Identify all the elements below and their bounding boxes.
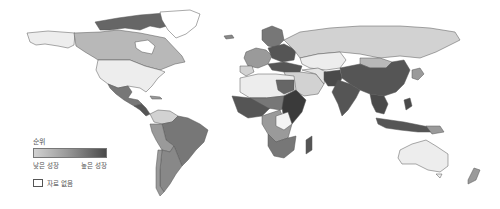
legend-no-data-label: 자료 없음 [47, 178, 73, 188]
region-southeast-asia [370, 94, 388, 114]
region-korea-japan [412, 68, 424, 80]
region-alaska [27, 31, 75, 48]
region-new-zealand [468, 168, 480, 184]
legend-high-label: 높은 성장 [81, 160, 107, 170]
legend-title: 순위 [33, 138, 113, 147]
region-iceland [224, 35, 234, 39]
region-western-europe [244, 48, 272, 68]
legend: 순위 낮은 성장 높은 성장 자료 없음 [33, 138, 113, 188]
region-balkans-turkey [268, 62, 302, 72]
region-philippines [404, 98, 412, 110]
region-caribbean [150, 96, 162, 99]
region-papua [426, 126, 444, 134]
legend-low-label: 낮은 성장 [33, 160, 59, 170]
region-indonesia [376, 118, 436, 132]
region-greenland [160, 10, 200, 38]
region-australia [398, 140, 448, 172]
legend-gradient-bar [33, 148, 107, 158]
region-central-america [134, 104, 150, 116]
region-iberia [240, 66, 254, 76]
no-data-swatch [33, 179, 43, 187]
legend-labels: 낮은 성장 높은 성장 [33, 160, 107, 170]
region-tasmania [436, 174, 442, 178]
region-russia [284, 26, 460, 58]
region-madagascar [306, 136, 312, 154]
legend-no-data: 자료 없음 [33, 178, 113, 188]
